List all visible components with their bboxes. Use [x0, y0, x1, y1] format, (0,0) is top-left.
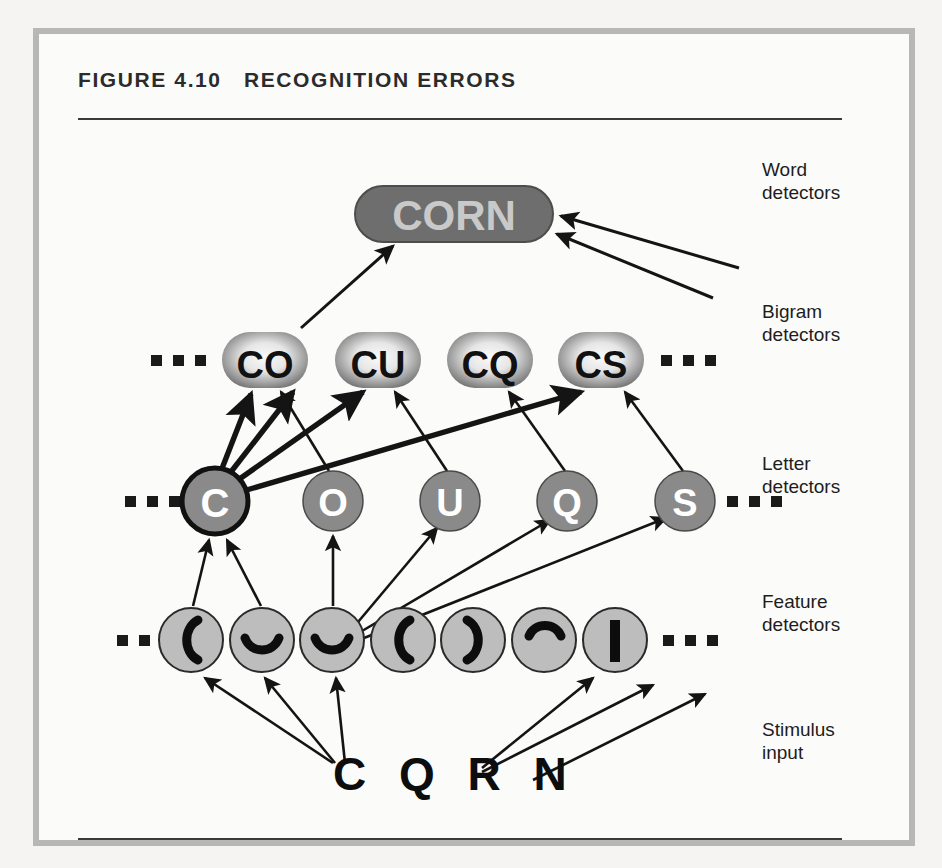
edge-feature-2-to-letter-c — [227, 540, 261, 606]
edge-word-feedback-lower — [557, 234, 713, 298]
letter-node-u[interactable]: U — [420, 471, 480, 531]
bigram-ellipsis-right — [661, 355, 716, 366]
bigram-node-label: CS — [575, 344, 628, 386]
letter-node-label: O — [318, 482, 348, 524]
bigram-node-label: CO — [237, 344, 294, 386]
edge-letter-c-to-bigram-cs — [233, 392, 581, 494]
bigram-layer: CO CU CQ CS — [151, 332, 716, 388]
bigram-ellipsis-left — [151, 355, 206, 366]
word-node-label: CORN — [392, 192, 516, 239]
row-label-feature-detectors: Feature detectors — [762, 590, 840, 636]
letter-node-label: Q — [552, 482, 582, 524]
feature-node-5[interactable] — [441, 608, 505, 672]
feature-node-7[interactable] — [583, 608, 647, 672]
letter-layer: C O U Q S — [125, 468, 782, 534]
edge-letter-c-to-bigram-co — [221, 394, 251, 471]
feature-ellipsis-left — [117, 635, 150, 646]
bigram-node-cs[interactable]: CS — [558, 332, 644, 388]
feature-node-1[interactable] — [159, 608, 223, 672]
letter-node-label: U — [436, 482, 463, 524]
edge-letter-s-to-bigram-cs — [625, 392, 683, 471]
row-label-bigram-detectors: Bigram detectors — [762, 300, 840, 346]
edge-feature-1-to-letter-c — [193, 540, 209, 606]
letter-node-q[interactable]: Q — [537, 471, 597, 531]
bigram-node-label: CQ — [462, 344, 519, 386]
letter-ellipsis-left — [125, 496, 180, 507]
edge-stimulus-c-to-feature-2 — [265, 678, 335, 763]
feature-node-3[interactable] — [300, 608, 364, 672]
edge-bigram-co-to-word-corn — [301, 246, 393, 328]
letter-node-label: C — [201, 481, 230, 525]
bigram-node-cu[interactable]: CU — [335, 332, 421, 388]
letter-node-o[interactable]: O — [303, 471, 363, 531]
row-label-letter-detectors: Letter detectors — [762, 452, 840, 498]
letter-node-s[interactable]: S — [655, 471, 715, 531]
row-label-stimulus-input: Stimulus input — [762, 718, 835, 764]
feature-node-4[interactable] — [371, 608, 435, 672]
word-layer: CORN — [355, 186, 553, 242]
bigram-node-label: CU — [351, 344, 406, 386]
bigram-node-cq[interactable]: CQ — [447, 332, 533, 388]
row-label-word-detectors: Word detectors — [762, 158, 840, 204]
edge-letter-o-to-bigram-co — [281, 392, 329, 471]
edge-word-feedback-upper — [561, 216, 739, 268]
bigram-node-co[interactable]: CO — [222, 332, 308, 388]
stimulus-layer: C Q R N — [333, 748, 577, 800]
feature-node-6[interactable] — [512, 608, 576, 672]
edge-stimulus-c-to-feature-1 — [205, 678, 333, 763]
feature-node-2[interactable] — [230, 608, 294, 672]
stimulus-input-text: C Q R N — [333, 748, 577, 800]
feature-layer — [117, 608, 718, 672]
page-background: FIGURE 4.10 RECOGNITION ERRORS — [0, 0, 942, 868]
letter-node-label: S — [672, 482, 697, 524]
edge-letter-c-to-bigram-cq — [231, 392, 363, 485]
feature-ellipsis-right — [663, 635, 718, 646]
letter-node-c[interactable]: C — [182, 468, 248, 534]
word-node-corn[interactable]: CORN — [355, 186, 553, 242]
